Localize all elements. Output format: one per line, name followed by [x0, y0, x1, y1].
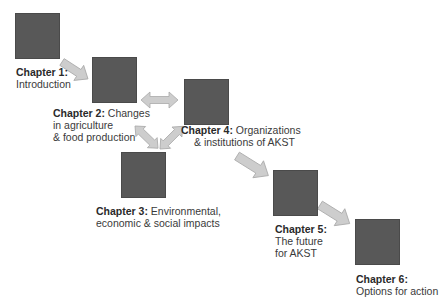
chapter-1-title: Chapter 1:	[16, 66, 68, 78]
arrow-chapter2-chapter4-bidirectional	[141, 92, 178, 108]
chapter-2-label: Chapter 2: Changes in agriculture & food…	[53, 107, 150, 143]
chapter-2-text-line-1: in agriculture	[53, 119, 150, 131]
chapter-1-box	[15, 13, 60, 59]
chapter-1-text: Introduction	[16, 78, 71, 90]
chapter-3-title-suffix: Environmental,	[148, 205, 221, 217]
chapter-4-box	[184, 79, 229, 125]
chapter-2-title: Chapter 2:	[53, 107, 105, 119]
chapter-5-title: Chapter 5:	[275, 223, 327, 235]
chapter-4-title-suffix: Organizations	[233, 124, 301, 136]
chapter-3-label: Chapter 3: Environmental, economic & soc…	[96, 205, 221, 229]
chapter-5-text-line-1: The future	[275, 235, 327, 247]
chapter-4-text-line-1: & institutions of AKST	[181, 136, 301, 148]
chapter-3-text-line-1: economic & social impacts	[96, 217, 221, 229]
chapter-5-text-line-2: for AKST	[275, 247, 327, 259]
chapter-6-text-line-1: Options for action	[356, 285, 438, 297]
chapter-4-label: Chapter 4: Organizations & institutions …	[181, 124, 301, 148]
chapter-5-box	[273, 170, 318, 216]
chapter-2-title-suffix: Changes	[105, 107, 150, 119]
chapter-6-label: Chapter 6: Options for action	[356, 273, 438, 297]
chapter-2-text-line-2: & food production	[53, 131, 150, 143]
arrow-chapter4-to-chapter5	[232, 148, 274, 185]
chapter-6-box	[355, 219, 400, 265]
chapter-6-title: Chapter 6:	[356, 273, 408, 285]
chapter-5-label: Chapter 5: The future for AKST	[275, 223, 327, 259]
chapter-3-title: Chapter 3:	[96, 205, 148, 217]
chapter-3-box	[121, 152, 166, 198]
chapter-flow-diagram: Chapter 1: Introduction Chapter 2: Chang…	[0, 0, 446, 306]
chapter-2-box	[92, 57, 137, 103]
chapter-4-title: Chapter 4:	[181, 124, 233, 136]
chapter-1-label: Chapter 1: Introduction	[16, 66, 71, 90]
